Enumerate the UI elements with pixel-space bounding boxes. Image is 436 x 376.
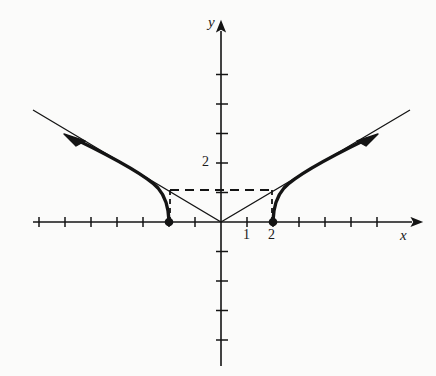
- closed-point-left: [165, 218, 174, 227]
- x-tick-label-2: 2: [268, 228, 275, 242]
- y-axis-ticks: [216, 75, 228, 341]
- x-tick-label-1: 1: [243, 228, 250, 242]
- x-axis-label: x: [400, 228, 407, 243]
- graph-figure: y x 1 2 2: [0, 0, 436, 376]
- y-axis-label: y: [208, 15, 215, 30]
- curve-right-branch: [273, 139, 367, 221]
- curve-left-branch: [75, 139, 169, 221]
- axes-group: [33, 31, 412, 366]
- coordinate-plane-svg: [0, 0, 436, 376]
- y-tick-label-2: 2: [202, 155, 209, 169]
- closed-point-right: [269, 218, 278, 227]
